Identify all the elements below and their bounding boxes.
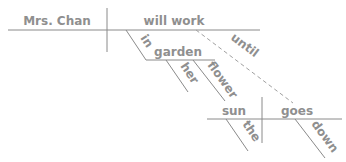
sub-predicate-word: goes <box>281 104 313 118</box>
modifier-word-down: down <box>309 118 342 156</box>
object-word: garden <box>154 45 202 59</box>
predicate-word: will work <box>144 14 206 28</box>
modifier-word-flower: flower <box>205 59 241 102</box>
sentence-diagram: Mrs. Chan will work in garden her flower… <box>0 0 346 162</box>
subject-word: Mrs. Chan <box>23 14 91 28</box>
connector-word: until <box>228 30 261 60</box>
sub-subject-word: sun <box>222 104 246 118</box>
modifier-word-the: the <box>240 118 264 144</box>
